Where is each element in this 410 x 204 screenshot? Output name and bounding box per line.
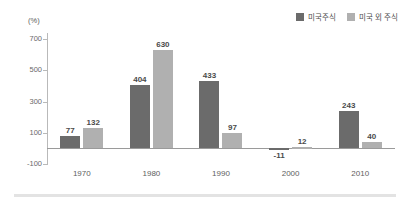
y-tick-label: 100 <box>29 129 42 137</box>
bar-1990-series-1[interactable]: 433 <box>199 81 219 149</box>
bar-1980-series-1[interactable]: 404 <box>130 85 150 148</box>
bar-1970-series-2[interactable]: 132 <box>83 128 103 149</box>
x-axis-label-2000: 2000 <box>282 169 300 179</box>
bar-1970-series-1[interactable]: 77 <box>60 136 80 148</box>
bar-2000-series-1[interactable]: -11 <box>269 148 289 150</box>
bar-value-label: 132 <box>87 118 100 127</box>
bar-value-label: -11 <box>274 151 285 160</box>
bar-group-2010: 24340 <box>325 33 395 164</box>
bar-group-1970: 77132 <box>47 33 117 164</box>
y-tick-label: 700 <box>29 35 42 43</box>
x-axis-labels: 19701980199020002010 <box>47 169 395 181</box>
bar-1980-series-2[interactable]: 630 <box>153 50 173 148</box>
bar-1990-series-2[interactable]: 97 <box>222 133 242 148</box>
y-tick-label: -100 <box>27 160 42 168</box>
bottom-divider <box>14 194 396 197</box>
bar-value-label: 404 <box>133 75 146 84</box>
y-tick-label: 300 <box>29 98 42 106</box>
x-axis-label-2010: 2010 <box>351 169 369 179</box>
y-axis-unit-label: (%) <box>28 16 40 25</box>
bar-value-label: 433 <box>203 71 216 80</box>
bar-value-label: 630 <box>156 40 169 49</box>
bar-value-label: 12 <box>298 137 307 146</box>
y-tick-label: 500 <box>29 66 42 74</box>
y-tick-mark <box>43 164 48 165</box>
bar-group-2000: -1112 <box>256 33 326 164</box>
bar-value-label: 97 <box>228 123 237 132</box>
legend-swatch-icon-series-2 <box>347 13 355 21</box>
x-axis-label-1970: 1970 <box>73 169 91 179</box>
bar-group-1980: 404630 <box>117 33 187 164</box>
bar-chart: 미국주식 미국 외 주식 (%) 700500300100-100 771324… <box>0 0 410 204</box>
bar-2010-series-1[interactable]: 243 <box>339 111 359 149</box>
bar-2010-series-2[interactable]: 40 <box>362 142 382 148</box>
legend-label-series-1: 미국주식 <box>308 13 336 22</box>
plot-area: 700500300100-100 7713240463043397-111224… <box>47 33 395 164</box>
bar-value-label: 40 <box>367 132 376 141</box>
bar-value-label: 77 <box>66 126 75 135</box>
x-axis-label-1990: 1990 <box>212 169 230 179</box>
bar-value-label: 243 <box>342 101 355 110</box>
chart-legend: 미국주식 미국 외 주식 <box>296 11 398 23</box>
bar-groups: 7713240463043397-111224340 <box>47 33 395 164</box>
legend-label-series-2: 미국 외 주식 <box>359 13 398 22</box>
x-axis-label-1980: 1980 <box>142 169 160 179</box>
bar-group-1990: 43397 <box>186 33 256 164</box>
legend-item-non-us-stocks[interactable]: 미국 외 주식 <box>347 13 398 22</box>
bar-2000-series-2[interactable]: 12 <box>292 147 312 149</box>
legend-swatch-icon-series-1 <box>296 13 304 21</box>
legend-item-us-stocks[interactable]: 미국주식 <box>296 13 336 22</box>
